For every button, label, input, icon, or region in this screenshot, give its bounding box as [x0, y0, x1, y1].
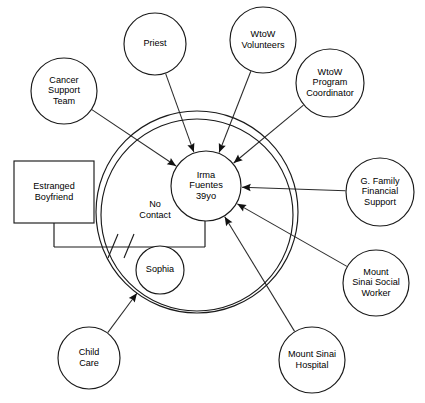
link-cancer-support-team — [92, 110, 176, 166]
ecomap-diagram: EstrangedBoyfriendSophiaIrmaFuentes39yoC… — [0, 0, 425, 403]
wtow-volunteers-label: Volunteers — [242, 40, 285, 50]
cancer-support-team-label: Support — [48, 85, 80, 95]
estranged-boyfriend-label: Estranged — [33, 181, 74, 191]
cutoff-slash-1 — [108, 234, 118, 258]
family-structure-layer — [54, 221, 205, 258]
arrowhead — [234, 155, 243, 163]
cancer-support-team-label: Cancer — [49, 75, 78, 85]
relationship-label: Contact — [139, 210, 171, 220]
g-family-financial-support-label: Financial — [362, 186, 398, 196]
wtow-program-coordinator-label: Coordinator — [306, 88, 354, 98]
wtow-program-coordinator-label: Program — [313, 77, 348, 87]
link-mount-sinai-hospital — [225, 217, 295, 332]
mount-sinai-social-worker-label: Worker — [361, 288, 390, 298]
sophia-label: Sophia — [146, 264, 175, 274]
link-wtow-program-coordinator — [234, 105, 304, 163]
arrowhead — [129, 293, 137, 302]
mount-sinai-social-worker-label: Mount — [363, 267, 389, 277]
arrowhead — [237, 204, 246, 212]
link-mount-sinai-social-worker — [237, 204, 347, 267]
mount-sinai-hospital-label: Mount Sinai — [288, 349, 336, 359]
link-g-family-financial-support — [242, 187, 346, 191]
link-wtow-volunteers — [219, 71, 251, 152]
child-care-label: Care — [79, 358, 99, 368]
priest-label: Priest — [143, 38, 167, 48]
ecomap-canvas: EstrangedBoyfriendSophiaIrmaFuentes39yoC… — [0, 0, 425, 403]
mount-sinai-hospital-label: Hospital — [296, 360, 329, 370]
arrowhead — [167, 158, 176, 166]
arrowhead — [225, 217, 233, 226]
wtow-program-coordinator-label: WtoW — [318, 67, 343, 77]
estranged-boyfriend-label: Boyfriend — [35, 192, 73, 202]
irma-label: 39yo — [196, 191, 216, 201]
g-family-financial-support-label: Support — [364, 197, 396, 207]
child-care-label: Child — [79, 347, 100, 357]
cancer-support-team-label: Team — [53, 96, 75, 106]
irma-label: Irma — [197, 170, 216, 180]
irma-label: Fuentes — [189, 180, 223, 190]
relationship-label: No — [149, 199, 161, 209]
wtow-volunteers-label: WtoW — [251, 29, 276, 39]
cutoff-slash-2 — [124, 234, 134, 258]
g-family-financial-support-label: G. Family — [361, 176, 400, 186]
mount-sinai-social-worker-label: Sinai Social — [352, 277, 400, 287]
